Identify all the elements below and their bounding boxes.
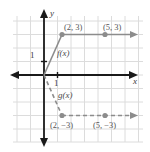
x-axis-arrow-left [10,71,19,79]
x-axis-label: x [133,76,137,86]
y-axis-label: y [50,8,54,18]
point-f-5-3 [102,32,107,37]
f-function-label: f(x) [57,48,70,58]
f-ray-arrowhead [130,31,138,38]
point-label-f-5-3: (5, 3) [103,22,121,32]
point-label-g-5-neg3: (5, −3) [93,120,116,130]
point-g-5-neg3 [102,113,107,118]
point-g-2-neg3 [59,113,64,118]
point-f-2-3 [59,32,64,37]
graph-figure: y x 1 1 f(x) g(x) (2, 3) (5, 3) (2, −3) … [0,0,150,152]
y-unit-tick-label: 1 [30,50,35,60]
y-axis-arrow-up [40,9,48,18]
g-ray-arrowhead [130,112,138,119]
x-unit-tick-label: 1 [54,78,59,88]
point-label-f-2-3: (2, 3) [64,22,82,32]
g-function-label: g(x) [58,90,73,100]
point-label-g-2-neg3: (2, −3) [50,120,73,130]
